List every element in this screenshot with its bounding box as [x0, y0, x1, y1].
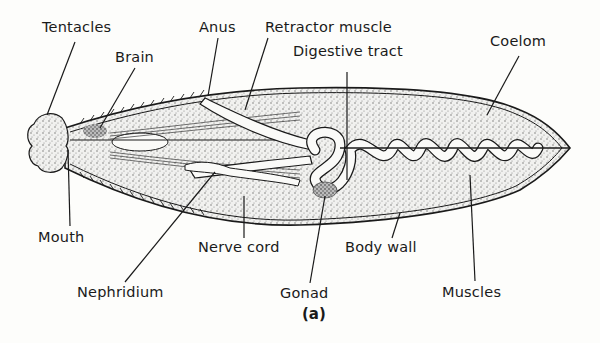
figure-caption: (a)	[302, 305, 326, 323]
label-anus: Anus	[199, 19, 236, 35]
gonad-shape	[313, 182, 337, 198]
brain-shape	[83, 124, 107, 138]
label-digestive-tract: Digestive tract	[293, 43, 403, 59]
label-brain: Brain	[115, 49, 154, 65]
label-mouth: Mouth	[38, 229, 84, 245]
label-body-wall: Body wall	[345, 239, 417, 255]
label-tentacles: Tentacles	[42, 19, 111, 35]
label-nerve-cord: Nerve cord	[198, 239, 280, 255]
tentacles-shape	[28, 114, 68, 173]
label-muscles: Muscles	[442, 284, 501, 300]
label-nephridium: Nephridium	[77, 284, 164, 300]
label-coelom: Coelom	[490, 33, 546, 49]
label-retractor-muscle: Retractor muscle	[265, 19, 392, 35]
body-wall	[65, 88, 570, 225]
label-gonad: Gonad	[280, 285, 328, 301]
